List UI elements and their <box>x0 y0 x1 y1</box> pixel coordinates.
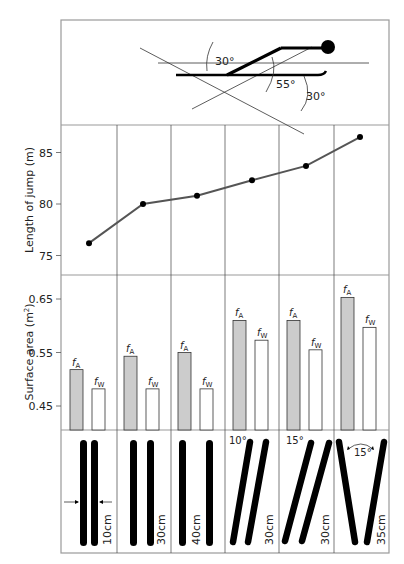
bar-fA <box>178 353 191 431</box>
ski-icon <box>147 440 154 546</box>
angle-label: 15° <box>286 435 304 446</box>
bar-fW <box>255 340 268 430</box>
surface-area-bars: fAfAfAfAfAfAfWfWfWfWfWfW <box>70 284 376 430</box>
ski-config-v-style: 15° 35cm <box>339 442 388 545</box>
ski-icon <box>179 440 186 546</box>
jump-length-line <box>89 137 360 243</box>
jump-length-points <box>86 134 363 246</box>
bar-fW <box>92 389 105 430</box>
y-tick-label: 0.45 <box>29 400 54 413</box>
data-point <box>357 134 363 140</box>
ski-jump-figure: 30° 55° 30° 758085 Length of jump (m) 0.… <box>0 0 404 564</box>
bar-label-fA: fA <box>289 307 298 320</box>
angle-label-30-lower: 30° <box>306 90 326 103</box>
ski-config-15deg-30cm: 15° 30cm <box>285 435 332 545</box>
angle-label-55: 55° <box>276 78 296 91</box>
bar-fA <box>341 297 354 430</box>
data-point <box>249 177 255 183</box>
jump-length-chart: 758085 Length of jump (m) <box>23 134 363 262</box>
data-point <box>86 240 92 246</box>
bar-label-fW: fW <box>257 327 268 340</box>
bar-fW <box>146 389 159 430</box>
bar-fA <box>70 370 83 430</box>
ski-config-10cm-parallel: 10cm <box>64 440 114 546</box>
spacing-label: 30cm <box>263 514 276 545</box>
jumper-head-icon <box>321 40 335 54</box>
bar-fW <box>200 389 213 430</box>
angle-label: 10° <box>229 435 247 446</box>
bar-label-fW: fW <box>202 376 213 389</box>
bar-label-fA: fA <box>126 343 135 356</box>
bar-label-fW: fW <box>365 314 376 327</box>
ski-icon <box>206 440 213 546</box>
bar-fW <box>309 350 322 430</box>
spacing-label: 35cm <box>375 514 388 545</box>
surface-area-chart: 0.450.550.65 Surface area (m2) fAfAfAfAf… <box>23 284 376 430</box>
jump-length-y-label: Length of jump (m) <box>23 147 36 253</box>
jumper-angle-diagram: 30° 55° 30° <box>140 40 369 134</box>
bar-label-fW: fW <box>148 376 159 389</box>
y-tick-label: 85 <box>39 147 53 160</box>
bar-label-fA: fA <box>72 357 81 370</box>
bar-fA <box>287 320 300 430</box>
spacing-label: 40cm <box>190 514 203 545</box>
spacing-label: 30cm <box>319 514 332 545</box>
bar-fA <box>233 320 246 430</box>
surface-area-y-label: Surface area (m2) <box>23 303 36 400</box>
data-point <box>303 163 309 169</box>
angle-label-30-upper: 30° <box>215 55 235 68</box>
bar-label-fA: fA <box>235 307 244 320</box>
spacing-label: 10cm <box>101 514 114 545</box>
bar-label-fA: fA <box>180 340 189 353</box>
data-point <box>194 193 200 199</box>
jumper-body-line <box>227 48 281 75</box>
spacing-label: 30cm <box>155 514 168 545</box>
angle-label: 15° <box>354 447 372 458</box>
ski-icon <box>339 442 355 542</box>
ski-config-30cm-parallel: 30cm <box>130 440 168 546</box>
bar-fW <box>363 327 376 430</box>
ski-icon <box>176 71 326 75</box>
jump-length-y-axis: 758085 <box>39 147 61 263</box>
ski-config-40cm-parallel: 40cm <box>179 440 213 546</box>
bar-label-fW: fW <box>311 337 322 350</box>
ski-icon <box>130 440 137 546</box>
ski-config-10deg-30cm: 10° 30cm <box>229 435 276 545</box>
ski-configuration-panel: 10cm 30cm 40cm 10° 30cm 15° 30cm <box>64 435 388 546</box>
data-point <box>140 201 146 207</box>
ski-icon <box>91 440 98 546</box>
ski-icon <box>80 440 87 546</box>
bar-fA <box>124 356 137 430</box>
bar-label-fA: fA <box>343 284 352 297</box>
y-tick-label: 80 <box>39 198 53 211</box>
bar-label-fW: fW <box>94 376 105 389</box>
angle-arc-30-upper <box>207 42 213 71</box>
y-tick-label: 75 <box>39 250 53 263</box>
